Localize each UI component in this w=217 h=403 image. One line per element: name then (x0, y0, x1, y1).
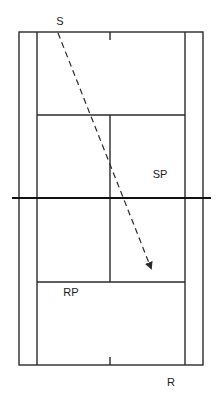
server-label: S (56, 15, 63, 27)
serve-path-arrow (58, 33, 151, 268)
receiver-partner-label: RP (63, 286, 78, 298)
server-partner-label: SP (153, 168, 168, 180)
tennis-court-diagram: S SP RP R (0, 0, 217, 403)
receiver-label: R (167, 376, 175, 388)
